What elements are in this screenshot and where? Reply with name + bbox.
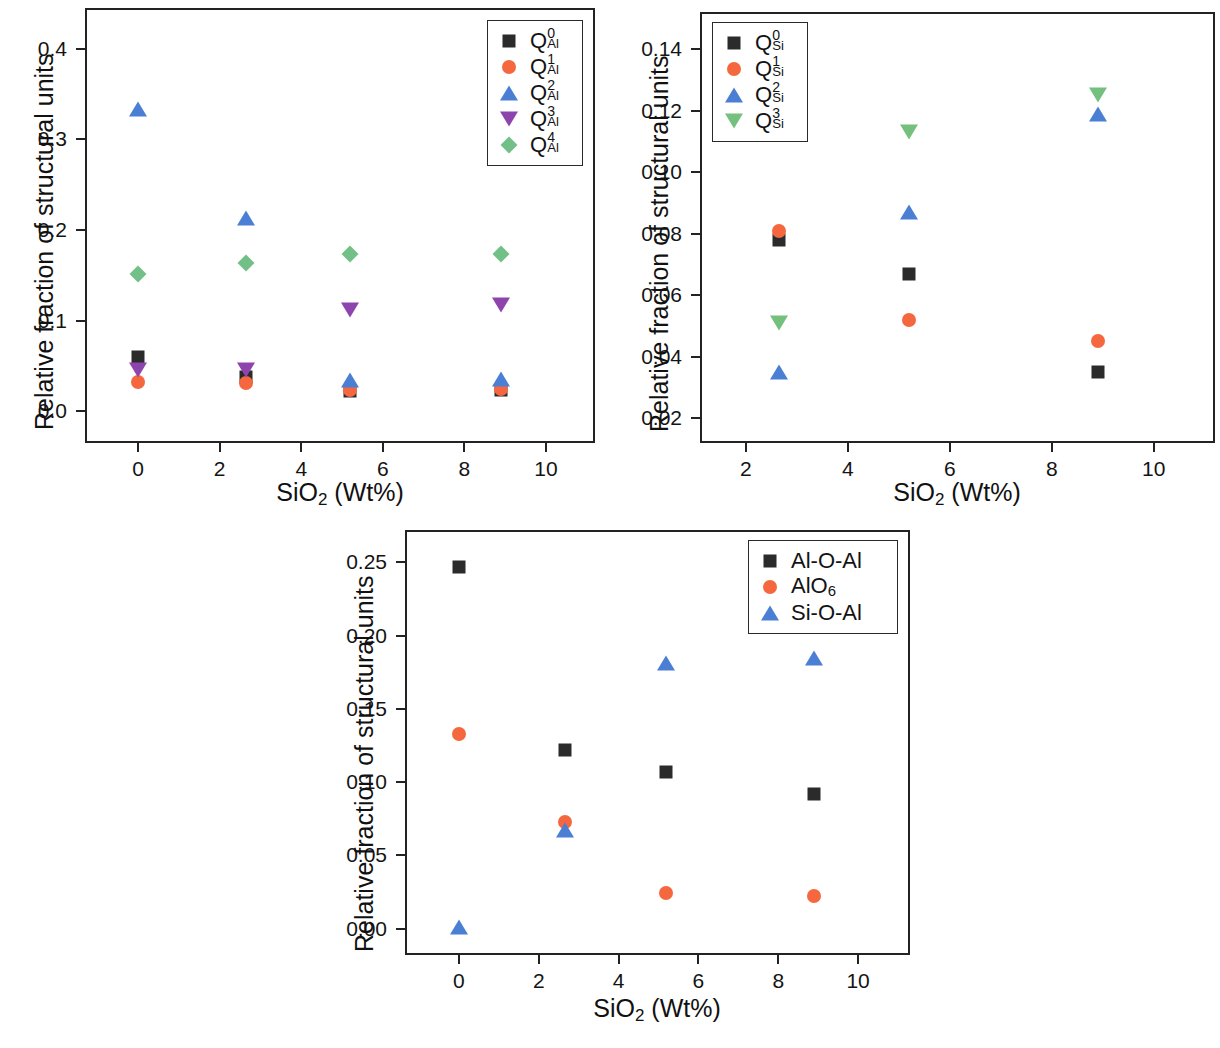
legend-item[interactable]: Q1Al <box>496 54 572 80</box>
x-axis-tick-label: 2 <box>533 969 545 993</box>
legend-marker-icon <box>757 577 783 597</box>
y-axis-tick <box>691 110 700 112</box>
x-axis-tick-label: 6 <box>693 969 705 993</box>
data-point <box>805 650 823 665</box>
legend-label-subscript: 6 <box>828 582 836 599</box>
legend-item[interactable]: Q0Si <box>721 30 797 56</box>
y-axis-tick <box>691 417 700 419</box>
legend-label-subscript: Si <box>772 39 784 52</box>
legend-marker-icon <box>721 111 747 131</box>
legend-item[interactable]: Q2Al <box>496 80 572 106</box>
x-axis-tick-label: 8 <box>772 969 784 993</box>
data-point <box>131 375 145 389</box>
x-axis-tick <box>219 443 221 452</box>
legend-label-subscript: Si <box>772 65 784 78</box>
x-axis-title-main: SiO <box>276 478 318 506</box>
chart-legend: Q0AlQ1AlQ2AlQ3AlQ4Al <box>487 20 583 166</box>
y-axis-tick <box>691 48 700 50</box>
legend-item-label: Q4Al <box>530 134 569 156</box>
x-axis-title-main: SiO <box>893 478 935 506</box>
x-axis-tick <box>697 955 699 964</box>
legend-label-base: Q <box>755 30 772 55</box>
data-point <box>558 743 571 756</box>
x-axis-tick <box>300 443 302 452</box>
x-axis-tick-label: 0 <box>132 457 144 481</box>
legend-marker-icon <box>496 109 522 129</box>
data-point <box>341 373 359 388</box>
legend-label-base: Q <box>755 56 772 81</box>
legend-marker-icon <box>757 551 783 571</box>
x-axis-tick <box>618 955 620 964</box>
x-axis-tick <box>847 443 849 452</box>
x-axis-title-tail: (Wt%) <box>327 478 403 506</box>
chart-legend: Al-O-AlAlO6Si-O-Al <box>748 540 898 634</box>
data-point <box>1089 106 1107 121</box>
legend-label-base: Q <box>530 106 547 131</box>
legend-item[interactable]: Q3Al <box>496 106 572 132</box>
x-axis-title: SiO2 (Wt%) <box>893 478 1021 510</box>
x-axis-tick <box>857 955 859 964</box>
legend-item-label: Q3Al <box>530 108 569 130</box>
y-axis-tick <box>396 635 405 637</box>
data-point <box>129 101 147 116</box>
data-point <box>902 313 916 327</box>
data-point <box>492 298 510 313</box>
legend-label-subscript: Si <box>772 91 784 104</box>
x-axis-title-tail: (Wt%) <box>644 994 720 1022</box>
legend-marker-icon <box>496 57 522 77</box>
y-axis-tick <box>76 320 85 322</box>
x-axis-tick-label: 2 <box>214 457 226 481</box>
data-point <box>772 224 786 238</box>
x-axis-tick <box>137 443 139 452</box>
data-point <box>452 560 465 573</box>
legend-item[interactable]: Q2Si <box>721 82 797 108</box>
legend-marker-icon <box>496 83 522 103</box>
legend-item[interactable]: AlO6 <box>757 574 887 600</box>
x-axis-title: SiO2 (Wt%) <box>593 994 721 1026</box>
y-axis-tick <box>691 233 700 235</box>
x-axis-tick <box>1153 443 1155 452</box>
x-axis-tick <box>1051 443 1053 452</box>
x-axis-tick <box>458 955 460 964</box>
x-axis-title-main: SiO <box>593 994 635 1022</box>
x-axis-tick <box>463 443 465 452</box>
legend-label-base: Q <box>755 82 772 107</box>
legend-label-base: Si-O-Al <box>791 600 862 625</box>
chart-legend: Q0SiQ1SiQ2SiQ3Si <box>712 22 808 142</box>
data-point <box>659 886 673 900</box>
legend-label-subscript: Al <box>547 115 559 128</box>
legend-item[interactable]: Q0Al <box>496 28 572 54</box>
y-axis-tick <box>691 294 700 296</box>
x-axis-tick <box>382 443 384 452</box>
legend-item[interactable]: Si-O-Al <box>757 600 887 626</box>
legend-label-base: Q <box>530 28 547 53</box>
y-axis-tick <box>396 781 405 783</box>
legend-item[interactable]: Q3Si <box>721 108 797 134</box>
y-axis-tick <box>76 138 85 140</box>
x-axis-tick <box>949 443 951 452</box>
legend-label-base: AlO <box>791 573 828 598</box>
x-axis-title-tail: (Wt%) <box>944 478 1020 506</box>
y-axis-tick <box>76 48 85 50</box>
legend-item[interactable]: Al-O-Al <box>757 548 887 574</box>
data-point <box>237 211 255 226</box>
x-axis-tick-label: 0 <box>453 969 465 993</box>
y-axis-tick <box>691 171 700 173</box>
legend-item-label: Q2Al <box>530 82 569 104</box>
x-axis-tick <box>545 443 547 452</box>
legend-marker-icon <box>496 31 522 51</box>
data-point <box>129 362 147 377</box>
data-point <box>657 656 675 671</box>
legend-item[interactable]: Q4Al <box>496 132 572 158</box>
legend-label-subscript: Al <box>547 63 559 76</box>
legend-item[interactable]: Q1Si <box>721 56 797 82</box>
x-axis-title-subscript: 2 <box>635 1006 644 1025</box>
x-axis-tick-label: 4 <box>613 969 625 993</box>
y-axis-title: Relative fraction of structural units <box>30 53 59 430</box>
legend-item-label: Si-O-Al <box>791 602 862 624</box>
legend-marker-icon <box>721 85 747 105</box>
x-axis-tick <box>745 443 747 452</box>
legend-item-label: Q3Si <box>755 110 794 132</box>
data-point <box>903 267 916 280</box>
x-axis-tick-label: 4 <box>842 457 854 481</box>
